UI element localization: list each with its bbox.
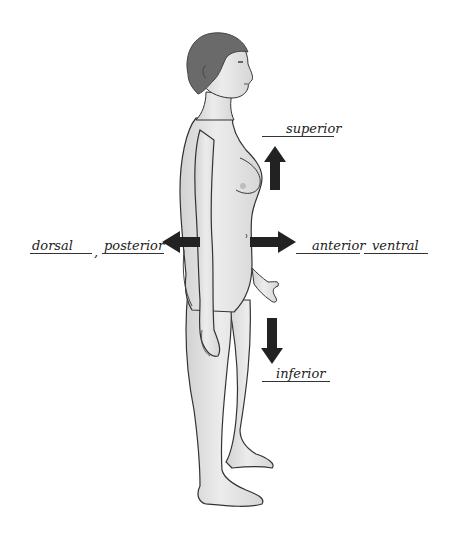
superior-answer-line: [262, 136, 334, 137]
label-superior: superior: [286, 122, 341, 135]
label-anterior: anterior: [312, 239, 365, 252]
front-leg: [186, 290, 263, 506]
anterior-answer-line: [296, 253, 360, 254]
ventral-answer-line: [364, 253, 428, 254]
label-posterior: posterior: [104, 239, 164, 252]
posterior-answer-line: [102, 253, 164, 254]
dorsal-answer-line: [30, 253, 92, 254]
label-separator-comma: ,: [94, 245, 98, 258]
human-figure: [0, 0, 466, 537]
arrow-anterior-icon: [250, 231, 296, 253]
directional-terms-diagram: superior dorsal , posterior anterior ven…: [0, 0, 466, 537]
far-hand: [252, 268, 278, 302]
head: [187, 33, 253, 98]
arrow-inferior-icon: [261, 318, 283, 364]
label-inferior: inferior: [276, 367, 325, 380]
label-ventral: ventral: [372, 239, 419, 252]
torso: [180, 116, 262, 312]
inferior-answer-line: [262, 381, 330, 382]
arrow-superior-icon: [264, 146, 286, 190]
label-dorsal: dorsal: [32, 239, 73, 252]
back-leg: [226, 300, 273, 468]
